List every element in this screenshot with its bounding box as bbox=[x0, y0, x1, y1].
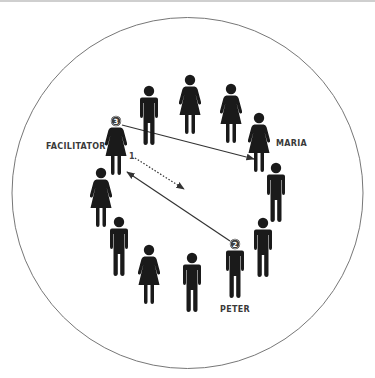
figure-woman-bottom bbox=[138, 245, 160, 304]
step-badge-2: 2 bbox=[230, 239, 239, 248]
label-peter: PETER bbox=[220, 305, 250, 314]
step-number-1: 1 bbox=[129, 152, 135, 161]
figure-maria bbox=[248, 113, 270, 172]
step-badge-3: 3 bbox=[111, 116, 120, 125]
label-maria: MARIA bbox=[276, 139, 307, 148]
svg-text:3: 3 bbox=[114, 118, 119, 126]
outer-circle bbox=[12, 18, 363, 369]
figure-man-left-lower bbox=[110, 217, 128, 276]
figure-man-right-lower bbox=[254, 218, 272, 277]
figure-man-right bbox=[267, 163, 285, 222]
figure-man-top-left bbox=[140, 86, 158, 145]
label-facilitator: FACILITATOR bbox=[46, 142, 106, 151]
figure-woman-top-right bbox=[220, 84, 242, 143]
arrow-facilitator-peter bbox=[127, 172, 230, 241]
figure-man-bottom bbox=[183, 253, 201, 312]
svg-text:2: 2 bbox=[233, 241, 238, 249]
circle-discussion-diagram: 3 2 1 FACILITATOR MARIA PETER bbox=[0, 0, 375, 378]
figure-woman-left bbox=[90, 168, 112, 227]
figure-woman-top bbox=[179, 75, 201, 134]
arrow-step1-dotted bbox=[135, 158, 184, 189]
